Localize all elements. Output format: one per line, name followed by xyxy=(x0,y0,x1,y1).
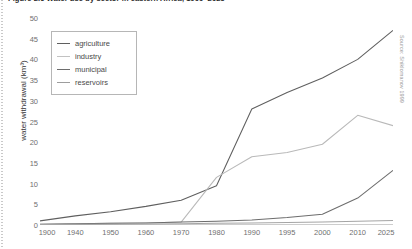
x-tick-1900: 1900 xyxy=(39,228,56,237)
x-tick-1940: 1940 xyxy=(67,228,84,237)
legend-label: reservoirs xyxy=(75,78,108,87)
x-axis-tick-labels: 1900194019501960197019801990199520002010… xyxy=(40,228,393,242)
y-tick-40: 40 xyxy=(12,55,38,64)
legend-item-agriculture: agriculture xyxy=(57,37,130,50)
series-line-municipal xyxy=(40,170,393,224)
x-tick-1970: 1970 xyxy=(173,228,190,237)
legend-swatch-industry xyxy=(57,56,70,57)
figure-title: Figure 2.6 Water use by sector in easter… xyxy=(8,0,225,3)
y-tick-10: 10 xyxy=(12,179,38,188)
y-tick-45: 45 xyxy=(12,34,38,43)
legend-item-industry: industry xyxy=(57,50,130,63)
y-tick-25: 25 xyxy=(12,117,38,126)
x-tick-2010: 2010 xyxy=(349,228,366,237)
y-tick-5: 5 xyxy=(12,200,38,209)
y-tick-20: 20 xyxy=(12,138,38,147)
y-tick-0: 0 xyxy=(12,221,38,230)
x-tick-1995: 1995 xyxy=(279,228,296,237)
legend-item-reservoirs: reservoirs xyxy=(57,76,130,89)
legend-swatch-municipal xyxy=(57,69,70,70)
source-credit: Source: Shiklomanov 1999 xyxy=(399,0,405,139)
legend-swatch-reservoirs xyxy=(57,82,70,83)
x-tick-1950: 1950 xyxy=(102,228,119,237)
legend-label: agriculture xyxy=(75,39,110,48)
chart-legend: agricultureindustrymunicipalreservoirs xyxy=(51,31,137,95)
legend-item-municipal: municipal xyxy=(57,63,130,76)
y-axis-tick-labels: 05101520253035404550 xyxy=(8,18,38,225)
y-tick-35: 35 xyxy=(12,76,38,85)
figure-container: Figure 2.6 Water use by sector in easter… xyxy=(0,0,412,249)
x-tick-2000: 2000 xyxy=(314,228,331,237)
left-edge-dotted-rule xyxy=(1,0,3,249)
x-tick-1960: 1960 xyxy=(138,228,155,237)
y-tick-15: 15 xyxy=(12,158,38,167)
x-tick-1990: 1990 xyxy=(243,228,260,237)
x-tick-1980: 1980 xyxy=(208,228,225,237)
x-tick-2025: 2025 xyxy=(378,228,395,237)
legend-label: industry xyxy=(75,52,101,61)
y-tick-50: 50 xyxy=(12,14,38,23)
y-tick-30: 30 xyxy=(12,96,38,105)
legend-label: municipal xyxy=(75,65,107,74)
legend-swatch-agriculture xyxy=(57,43,70,44)
series-line-industry xyxy=(40,115,393,224)
